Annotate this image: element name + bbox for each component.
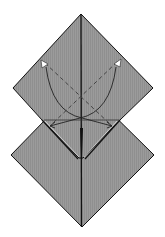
- origami-diagram: Origami fold step Two overlapping square…: [0, 0, 165, 237]
- center-line: [81, 14, 82, 227]
- diagram-canvas: [0, 0, 165, 237]
